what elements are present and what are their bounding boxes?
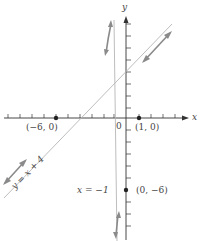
y-axis	[124, 16, 132, 240]
point-label-0-neg6: (0, −6)	[136, 186, 168, 195]
origin-label: 0	[116, 122, 122, 131]
point-label-1-0: (1, 0)	[135, 123, 159, 132]
double-arrow-icon	[144, 33, 170, 61]
x-axis-label: x	[192, 113, 197, 122]
point-1-0	[137, 116, 141, 120]
point-neg6-0	[54, 116, 58, 120]
y-axis-label: y	[122, 3, 127, 12]
point-0-neg6	[124, 188, 128, 192]
x-axis-arrow-icon	[182, 116, 189, 121]
point-label-neg6-0: (−6, 0)	[26, 123, 58, 132]
double-arrow-icon	[106, 24, 111, 53]
y-axis-arrow-icon	[124, 16, 129, 23]
graph-canvas	[0, 0, 201, 241]
x-axis	[4, 114, 189, 121]
equation-label-x-neg1: x = −1	[77, 186, 109, 195]
